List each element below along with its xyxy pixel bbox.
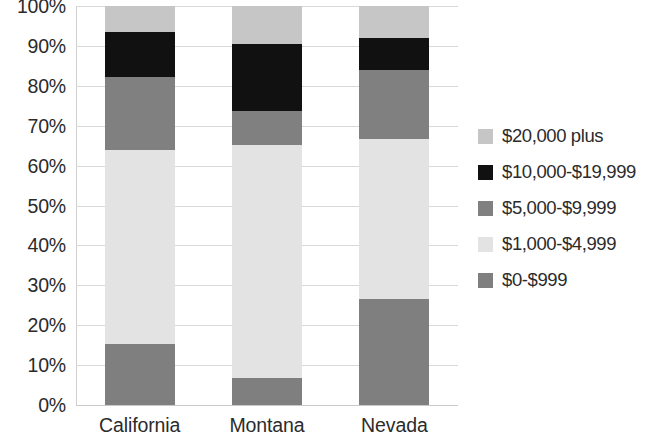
legend: $20,000 plus$10,000-$19,999$5,000-$9,999… xyxy=(478,118,646,298)
bar-stack xyxy=(105,6,175,405)
bar-group-montana[interactable] xyxy=(232,6,302,405)
legend-swatch-icon xyxy=(478,237,493,252)
legend-swatch-icon xyxy=(478,165,493,180)
legend-swatch-icon xyxy=(478,201,493,216)
bar-segment[interactable] xyxy=(232,145,302,378)
y-tick-label: 40% xyxy=(28,234,66,257)
y-tick-label: 70% xyxy=(28,114,66,137)
y-tick-label: 30% xyxy=(28,274,66,297)
legend-label: $0-$999 xyxy=(502,269,567,291)
y-tick-label: 100% xyxy=(17,0,66,18)
legend-swatch-icon xyxy=(478,273,493,288)
bar-group-california[interactable] xyxy=(105,6,175,405)
legend-item[interactable]: $5,000-$9,999 xyxy=(478,190,646,226)
plot-area xyxy=(76,6,458,405)
bar-segment[interactable] xyxy=(105,6,175,32)
gridline xyxy=(76,405,458,406)
bar-series-container xyxy=(76,6,458,405)
legend-label: $1,000-$4,999 xyxy=(502,233,616,255)
y-tick-label: 20% xyxy=(28,314,66,337)
y-tick-label: 60% xyxy=(28,154,66,177)
y-tick-label: 90% xyxy=(28,34,66,57)
bar-segment[interactable] xyxy=(232,111,302,145)
x-tick-label: Montana xyxy=(229,414,304,437)
y-tick-label: 10% xyxy=(28,354,66,377)
y-tick-label: 0% xyxy=(38,394,66,417)
legend-item[interactable]: $20,000 plus xyxy=(478,118,646,154)
bar-group-nevada[interactable] xyxy=(359,6,429,405)
x-axis: CaliforniaMontanaNevada xyxy=(76,410,458,444)
x-tick-label: California xyxy=(99,414,180,437)
bar-stack xyxy=(359,6,429,405)
y-tick-label: 50% xyxy=(28,194,66,217)
legend-item[interactable]: $10,000-$19,999 xyxy=(478,154,646,190)
legend-label: $10,000-$19,999 xyxy=(502,161,636,183)
bar-segment[interactable] xyxy=(232,378,302,405)
bar-segment[interactable] xyxy=(105,32,175,77)
y-axis: 0%10%20%30%40%50%60%70%80%90%100% xyxy=(0,0,72,412)
bar-segment[interactable] xyxy=(359,38,429,70)
bar-segment[interactable] xyxy=(105,77,175,150)
bar-segment[interactable] xyxy=(105,344,175,405)
legend-item[interactable]: $1,000-$4,999 xyxy=(478,226,646,262)
y-tick-label: 80% xyxy=(28,74,66,97)
bar-segment[interactable] xyxy=(232,44,302,111)
legend-swatch-icon xyxy=(478,129,493,144)
bar-segment[interactable] xyxy=(359,6,429,38)
bar-segment[interactable] xyxy=(359,139,429,299)
legend-item[interactable]: $0-$999 xyxy=(478,262,646,298)
bar-segment[interactable] xyxy=(359,299,429,405)
bar-segment[interactable] xyxy=(359,70,429,139)
bar-segment[interactable] xyxy=(232,6,302,44)
legend-label: $5,000-$9,999 xyxy=(502,197,616,219)
bar-stack xyxy=(232,6,302,405)
bar-segment[interactable] xyxy=(105,150,175,344)
legend-label: $20,000 plus xyxy=(502,125,603,147)
x-tick-label: Nevada xyxy=(361,414,428,437)
stacked-bar-chart: 0%10%20%30%40%50%60%70%80%90%100% Califo… xyxy=(0,0,646,444)
